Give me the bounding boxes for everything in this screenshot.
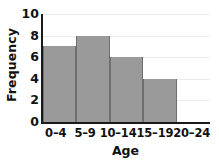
x-axis-title: Age (41, 143, 210, 158)
bar-slot (110, 14, 143, 122)
y-axis-tick-label: 10 (3, 8, 39, 21)
y-axis-tick-label: 8 (3, 29, 39, 42)
y-axis-tick-label: 0 (3, 116, 39, 129)
x-axis-tick-label: 5–9 (70, 126, 99, 140)
bar (76, 36, 109, 122)
bar-slot (76, 14, 109, 122)
y-axis-tick-label: 6 (3, 51, 39, 64)
y-axis-tick-label: 2 (3, 94, 39, 107)
x-axis-tick-label: 0–4 (41, 126, 70, 140)
x-axis-tick-label: 15–19 (136, 126, 173, 140)
y-axis-tick-label: 4 (3, 73, 39, 86)
x-axis-tick-label: 20–24 (173, 126, 210, 140)
bar (43, 46, 76, 122)
gridline (43, 122, 210, 123)
histogram-chart: Frequency 0246810 0–45–910–1415–1920–24 … (0, 0, 219, 164)
bar (143, 79, 176, 122)
x-axis-tick-labels: 0–45–910–1415–1920–24 (41, 126, 210, 140)
y-axis-title: Frequency (2, 3, 20, 127)
bar-slot (177, 14, 210, 122)
bar-slot (43, 14, 76, 122)
x-axis-tick-label: 10–14 (100, 126, 137, 140)
bar (110, 57, 143, 122)
plot-area: 0246810 (41, 14, 210, 124)
bar-series (43, 14, 210, 122)
bar-slot (143, 14, 176, 122)
